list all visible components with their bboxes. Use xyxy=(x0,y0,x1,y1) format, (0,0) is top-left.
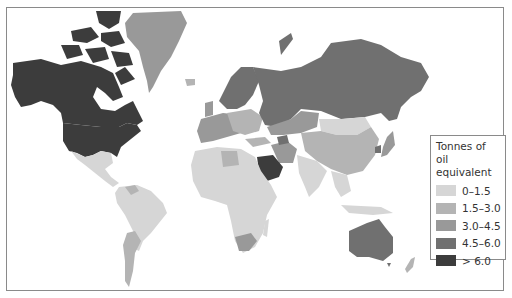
iceland xyxy=(185,79,195,86)
legend-label: 0–1.5 xyxy=(462,185,491,197)
legend-swatch-1 xyxy=(436,203,456,214)
australia xyxy=(349,219,393,261)
greenland xyxy=(125,11,187,93)
libya xyxy=(221,151,239,167)
novaya-zemlya xyxy=(279,33,293,55)
tasmania xyxy=(387,263,391,267)
russia xyxy=(253,39,429,127)
legend-swatch-3 xyxy=(436,238,456,249)
legend-item: 1.5–3.0 xyxy=(436,200,501,218)
legend-item: 4.5–6.0 xyxy=(436,235,501,253)
legend-label: 3.0–4.5 xyxy=(462,220,501,232)
legend-item: 3.0–4.5 xyxy=(436,217,501,235)
southeast-asia xyxy=(331,171,351,197)
south-america xyxy=(115,185,167,251)
legend-item: 0–1.5 xyxy=(436,182,501,200)
turkey xyxy=(245,137,271,147)
legend-label: 4.5–6.0 xyxy=(462,237,501,249)
legend-swatch-0 xyxy=(436,185,456,196)
japan xyxy=(381,131,395,157)
legend-swatch-2 xyxy=(436,220,456,231)
uk xyxy=(205,101,213,117)
legend-item: > 6.0 xyxy=(436,252,501,270)
map-legend: Tonnes of oil equivalent 0–1.5 1.5–3.0 3… xyxy=(430,135,506,260)
legend-label: 1.5–3.0 xyxy=(462,202,501,214)
new-zealand xyxy=(405,257,415,273)
legend-title-line1: Tonnes of oil xyxy=(436,140,501,166)
argentina xyxy=(123,231,141,287)
indonesia xyxy=(341,205,393,215)
mexico xyxy=(71,151,119,187)
legend-label: > 6.0 xyxy=(462,255,491,267)
scandinavia xyxy=(219,67,259,109)
legend-title-line2: equivalent xyxy=(436,166,501,179)
legend-swatch-4 xyxy=(436,255,456,266)
